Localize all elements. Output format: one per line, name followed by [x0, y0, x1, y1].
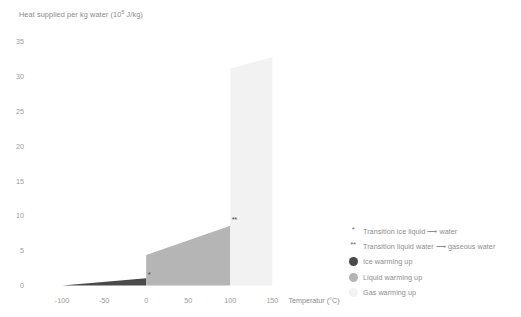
- asterisk-glyph: *: [352, 226, 355, 234]
- legend-item-1[interactable]: **Transition liquid water ⟶ gaseous wate…: [343, 239, 521, 254]
- legend-item-2[interactable]: Ice warming up: [343, 254, 521, 269]
- legend-item-3[interactable]: Liquid warming up: [343, 270, 521, 285]
- asterisk-glyph: **: [350, 241, 355, 249]
- legend-item-label: Gas warming up: [363, 288, 416, 297]
- color-swatch: [349, 257, 358, 266]
- area-gas: [230, 57, 272, 285]
- color-swatch: [349, 288, 358, 297]
- legend-item-label: Transition ice liquid ⟶ water: [363, 227, 457, 236]
- area-ice: [62, 278, 146, 285]
- asterisk-icon: *: [343, 224, 363, 239]
- legend-item-4[interactable]: Gas warming up: [343, 285, 521, 300]
- chart-legend: *Transition ice liquid ⟶ water**Transiti…: [343, 224, 521, 300]
- legend-item-label: Liquid warming up: [363, 273, 422, 282]
- legend-item-label: Ice warming up: [363, 257, 412, 266]
- circle-swatch-icon: [343, 254, 363, 269]
- circle-swatch-icon: [343, 270, 363, 285]
- chart-container: Heat supplied per kg water (105 J/kg) 05…: [0, 0, 521, 317]
- legend-item-0[interactable]: *Transition ice liquid ⟶ water: [343, 224, 521, 239]
- transition-marker-melting: *: [148, 271, 151, 279]
- color-swatch: [349, 273, 358, 282]
- asterisk-icon: **: [343, 239, 363, 254]
- circle-swatch-icon: [343, 285, 363, 300]
- transition-marker-vaporization: **: [232, 216, 237, 224]
- legend-item-label: Transition liquid water ⟶ gaseous water: [363, 242, 495, 251]
- area-liquid: [146, 226, 230, 286]
